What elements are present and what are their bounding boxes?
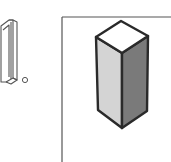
numeral-one-icon [1, 20, 17, 84]
prism-icon [96, 21, 148, 128]
diagram-svg [0, 0, 171, 162]
diagram-canvas: 1. [0, 0, 171, 162]
period-dot-icon [22, 77, 27, 82]
